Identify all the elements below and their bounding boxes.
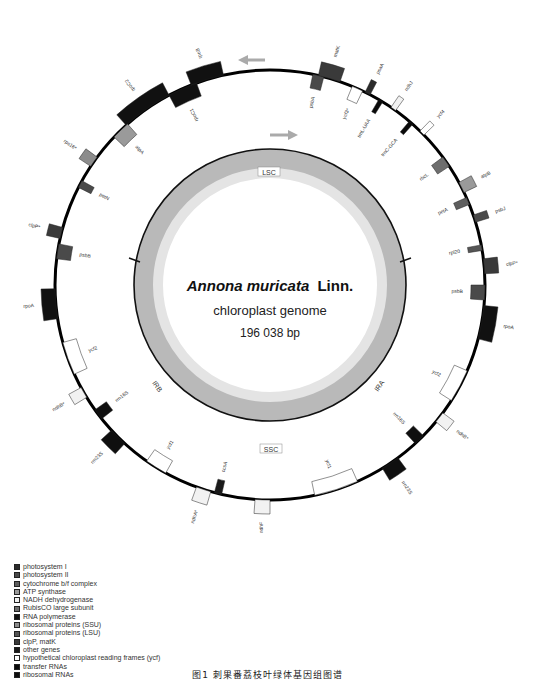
legend-swatch — [14, 581, 20, 587]
gene-label: atpB — [480, 169, 492, 179]
legend-item: other genes — [14, 646, 160, 654]
gene-block — [57, 244, 73, 261]
legend-swatch — [14, 614, 20, 620]
gene-block — [372, 100, 383, 114]
gene-block — [391, 96, 404, 111]
gene-label: rrn23S — [401, 479, 415, 495]
gene-block — [117, 83, 169, 125]
legend-item: hypothetical chloroplast reading frames … — [14, 654, 160, 662]
gene-label: psbB — [79, 251, 92, 259]
region-label-ssc: SSC — [260, 444, 282, 453]
legend-item: photosystem II — [14, 571, 160, 579]
gene-label: ndhF — [258, 522, 264, 534]
legend-swatch — [14, 597, 20, 603]
gene-label: rps16* — [63, 138, 78, 151]
gene-block — [114, 124, 137, 147]
gene-block — [400, 121, 412, 134]
legend-item: clpP, matK — [14, 638, 160, 646]
legend-swatch — [14, 639, 20, 645]
gene-label: psbB — [451, 288, 463, 294]
gene-block — [254, 499, 270, 514]
gene-label: petA — [437, 206, 449, 216]
gene-block — [78, 181, 94, 194]
svg-text:LSC: LSC — [262, 169, 276, 176]
gene-label: clpP* — [506, 260, 518, 267]
gene-block — [41, 289, 58, 321]
gene-block — [365, 80, 377, 95]
legend-item: cytochrome b/f complex — [14, 580, 160, 588]
gene-block — [432, 157, 450, 174]
gene-label: rrn16S — [114, 389, 130, 403]
legend: photosystem Iphotosystem IIcytochrome b/… — [14, 563, 160, 679]
gene-block — [101, 430, 125, 454]
gene-label: rpoC2 — [123, 78, 136, 93]
legend-item: RNA polymerase — [14, 613, 160, 621]
genome-title: Annona muricata Linn. — [186, 277, 354, 294]
figure-caption: 图1 刺果番荔枝叶绿体基因组图谱 — [0, 668, 535, 681]
gene-block — [473, 210, 489, 222]
legend-label: other genes — [23, 646, 60, 654]
gene-label: rbcL — [418, 171, 430, 182]
legend-label: photosystem II — [23, 571, 69, 579]
gene-block — [406, 426, 424, 444]
legend-swatch — [14, 622, 20, 628]
gene-label: rpoC1 — [188, 108, 199, 123]
gene-block — [214, 479, 224, 494]
legend-label: ribosomal proteins (LSU) — [23, 629, 100, 637]
gene-label: trnL-UAA — [356, 117, 372, 138]
gene-label: rrn16S — [392, 410, 407, 425]
gene-label: ycf4 — [435, 108, 446, 119]
gene-label: rpoB — [194, 47, 203, 59]
legend-swatch — [14, 564, 20, 570]
legend-label: ATP synthase — [23, 588, 66, 596]
svg-text:SSC: SSC — [264, 446, 278, 453]
legend-label: ribosomal proteins (SSU) — [23, 621, 101, 629]
gene-label: rrn23S — [89, 450, 104, 465]
gene-label: ndhJ — [403, 79, 414, 92]
gene-label: rpl20 — [448, 248, 460, 256]
gene-label: petN — [98, 191, 110, 201]
genome-subtitle: chloroplast genome — [213, 303, 326, 318]
gene-block — [46, 224, 62, 239]
legend-label: clpP, matK — [23, 638, 56, 646]
gene-label: ndhA* — [189, 509, 199, 524]
legend-item: NADH dehydrogenase — [14, 596, 160, 604]
gene-label: ycf1 — [165, 439, 175, 450]
legend-item: ribosomal proteins (SSU) — [14, 621, 160, 629]
gene-label: ycf3* — [341, 107, 351, 120]
legend-swatch — [14, 572, 20, 578]
legend-swatch — [14, 606, 20, 612]
gene-block — [147, 450, 173, 473]
region-label-irb: IRB — [151, 380, 164, 394]
gene-label: psbA — [307, 95, 316, 108]
gene-label: ycf2 — [431, 368, 442, 378]
gene-block — [95, 402, 113, 419]
legend-label: photosystem I — [23, 563, 67, 571]
legend-item: photosystem I — [14, 563, 160, 571]
legend-swatch — [14, 647, 20, 653]
gene-block — [436, 413, 454, 431]
gene-label: ycf1 — [325, 459, 334, 470]
gene-block — [79, 149, 97, 167]
legend-swatch — [14, 631, 20, 637]
gene-label: psaA — [374, 61, 385, 74]
direction-arrow-top — [238, 55, 265, 65]
gene-block — [382, 458, 406, 480]
direction-arrow-lower — [270, 130, 298, 140]
legend-swatch — [14, 655, 20, 661]
legend-item: ribosomal proteins (LSU) — [14, 629, 160, 637]
gene-block — [454, 198, 470, 210]
region-label-lsc: LSC — [258, 167, 280, 176]
legend-label: RubisCO large subunit — [23, 604, 93, 612]
legend-label: hypothetical chloroplast reading frames … — [23, 654, 160, 662]
gene-label: trnC-GCA — [379, 136, 398, 157]
gene-label: ndhB* — [51, 400, 66, 412]
gene-block — [483, 257, 498, 274]
legend-label: RNA polymerase — [23, 613, 76, 621]
gene-label: atpA — [134, 144, 146, 156]
gene-label: clpP* — [28, 221, 41, 230]
genome-size: 196 038 bp — [240, 326, 300, 340]
genome-map: LSC SSC IRA IRB Annona muricata Linn. ch… — [0, 0, 535, 640]
legend-label: NADH dehydrogenase — [23, 596, 93, 604]
gene-label: ycf2 — [87, 344, 98, 353]
